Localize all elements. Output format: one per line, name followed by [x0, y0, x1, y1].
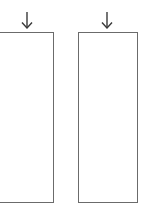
arrow-down-icon [21, 11, 33, 29]
diagram-canvas [0, 0, 153, 205]
right-box [78, 32, 138, 203]
arrow-down-icon [101, 11, 113, 29]
left-box [0, 32, 54, 203]
